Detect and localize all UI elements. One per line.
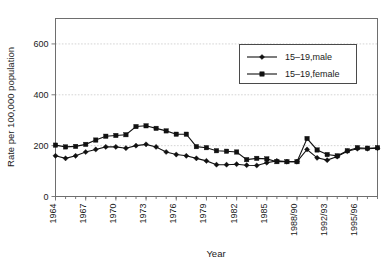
data-point [345, 149, 349, 153]
data-point [73, 153, 78, 158]
data-point [154, 126, 158, 130]
data-point [204, 145, 208, 149]
data-point [143, 142, 148, 147]
y-tick-label: 600 [33, 39, 48, 49]
legend-label: 15–19,male [285, 52, 332, 62]
data-point [174, 152, 179, 157]
data-point [133, 143, 138, 148]
x-axis-title: Year [206, 248, 225, 259]
data-point [204, 158, 209, 163]
data-point [255, 156, 259, 160]
data-point [194, 144, 198, 148]
data-point [285, 159, 289, 163]
y-axis-ticks: 0200400600 [33, 39, 55, 202]
legend-marker [260, 72, 264, 76]
data-point [73, 144, 77, 148]
data-point [234, 162, 239, 167]
data-point [53, 153, 58, 158]
data-point [275, 159, 279, 163]
data-point [174, 132, 178, 136]
legend-label: 15–19,female [285, 69, 340, 79]
data-point [63, 145, 67, 149]
y-tick-label: 0 [43, 192, 48, 202]
data-point [325, 158, 330, 163]
data-point [265, 157, 269, 161]
x-axis-ticks: 196419671970197319761979198219851988/901… [48, 197, 378, 237]
data-point [83, 149, 88, 154]
x-tick-label: 1992/93 [319, 204, 329, 237]
x-tick-label: 1973 [138, 204, 148, 224]
y-axis-title: Rate per 100,000 population [5, 47, 16, 167]
chart-figure: 0200400600 19641967197019731976197919821… [0, 0, 390, 270]
data-point [365, 146, 369, 150]
data-point [305, 136, 309, 140]
data-point [194, 156, 199, 161]
x-tick-label: 1979 [198, 204, 208, 224]
x-tick-label: 1970 [108, 204, 118, 224]
data-point [224, 162, 229, 167]
data-point [114, 133, 118, 137]
x-tick-label: 1985 [259, 204, 269, 224]
data-point [184, 153, 189, 158]
x-tick-label: 1995/96 [349, 204, 359, 237]
data-point [164, 149, 169, 154]
x-tick-label: 1976 [168, 204, 178, 224]
data-point [244, 157, 248, 161]
data-point [234, 150, 238, 154]
data-point [124, 133, 128, 137]
line-chart: 0200400600 19641967197019731976197919821… [0, 0, 390, 270]
data-point [224, 149, 228, 153]
x-tick-label: 1967 [78, 204, 88, 224]
data-point [315, 148, 319, 152]
x-tick-label: 1982 [229, 204, 239, 224]
chart-legend: 15–19,male15–19,female [240, 45, 357, 84]
data-point [123, 146, 128, 151]
data-point [104, 134, 108, 138]
data-point [93, 147, 98, 152]
data-point [375, 145, 379, 149]
data-point [154, 144, 159, 149]
data-point [83, 142, 87, 146]
data-point [295, 159, 299, 163]
series-2 [53, 124, 379, 164]
data-point [94, 138, 98, 142]
data-point [244, 163, 249, 168]
y-tick-label: 400 [33, 90, 48, 100]
data-point [63, 156, 68, 161]
data-point [134, 124, 138, 128]
data-point [254, 163, 259, 168]
data-point [103, 144, 108, 149]
data-point [113, 144, 118, 149]
data-point [335, 154, 339, 158]
data-point [184, 132, 188, 136]
x-tick-label: 1964 [48, 204, 58, 224]
x-tick-label: 1988/90 [289, 204, 299, 237]
y-tick-label: 200 [33, 141, 48, 151]
data-point [164, 129, 168, 133]
data-point [214, 149, 218, 153]
data-point [214, 162, 219, 167]
data-point [144, 124, 148, 128]
data-point [53, 143, 57, 147]
data-point [325, 152, 329, 156]
data-point [355, 145, 359, 149]
